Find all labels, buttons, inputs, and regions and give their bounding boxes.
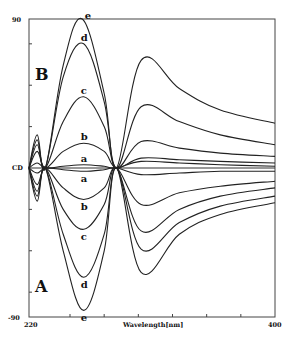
curve-label-c: c [81,231,87,242]
panel-label-b: B [35,65,49,84]
x-tick-label-left: 220 [24,321,38,329]
curve-label-a: a [81,173,88,184]
spectra-curves [29,18,275,310]
panel-label-a: A [34,277,48,296]
curve-label-e: e [81,312,87,323]
y-axis-title: CD [12,164,23,172]
curve-label-d: d [81,32,88,43]
curve-label-a: a [81,153,88,164]
curve-label-e: e [85,10,91,21]
curve-b-e [29,18,275,170]
curve-label-b: b [81,201,88,212]
curve-a-c [29,167,275,232]
curve-label-b: b [81,131,88,142]
curve-a-a [29,168,275,175]
y-tick-label-bottom: -90 [8,314,20,322]
x-axis-title: Wavelength[nm] [122,321,183,329]
curve-b-b [29,143,275,168]
curve-a-b [29,168,275,206]
cd-spectra-chart: abcdeabcde 90 CD -90 220 400 Wavelength[… [0,0,292,341]
curve-label-d: d [81,279,88,290]
y-tick-label-top: 90 [12,16,22,24]
curve-b-d [29,43,275,170]
x-tick-label-right: 400 [268,321,282,329]
curve-a-e [29,167,275,311]
curve-label-c: c [81,85,87,96]
